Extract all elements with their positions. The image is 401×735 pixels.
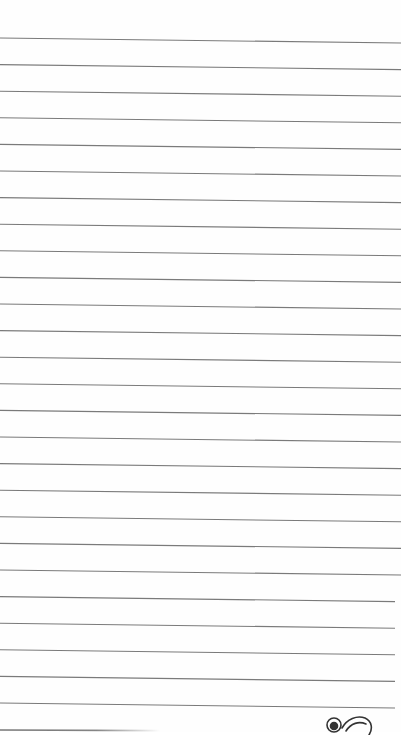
ruled-line xyxy=(0,91,401,96)
ruled-line xyxy=(0,650,395,655)
ruled-line xyxy=(0,118,401,123)
ruled-line xyxy=(0,224,401,229)
ruled-line xyxy=(0,517,401,522)
doodle-ornament-icon xyxy=(325,711,375,735)
ruled-line xyxy=(0,357,401,362)
ruled-line xyxy=(0,570,401,575)
ruled-line xyxy=(0,464,401,469)
ruled-line xyxy=(0,277,401,282)
ruled-line xyxy=(0,623,395,628)
ruled-line xyxy=(0,597,395,602)
ruled-line xyxy=(0,38,401,43)
ruled-line xyxy=(0,331,401,336)
ruled-line xyxy=(0,251,401,256)
ruled-line xyxy=(0,703,395,708)
ruled-line xyxy=(0,437,401,442)
ruled-line xyxy=(0,384,401,389)
ruled-line xyxy=(0,171,401,176)
ruled-line xyxy=(0,543,401,548)
ruled-line xyxy=(0,410,401,415)
ruled-line xyxy=(0,198,401,203)
ruled-line xyxy=(0,676,395,681)
ruled-line xyxy=(0,144,401,149)
ruled-line xyxy=(0,304,401,309)
ruled-line xyxy=(0,490,401,495)
ruled-line xyxy=(0,65,401,70)
ruled-line-partial xyxy=(0,730,160,731)
